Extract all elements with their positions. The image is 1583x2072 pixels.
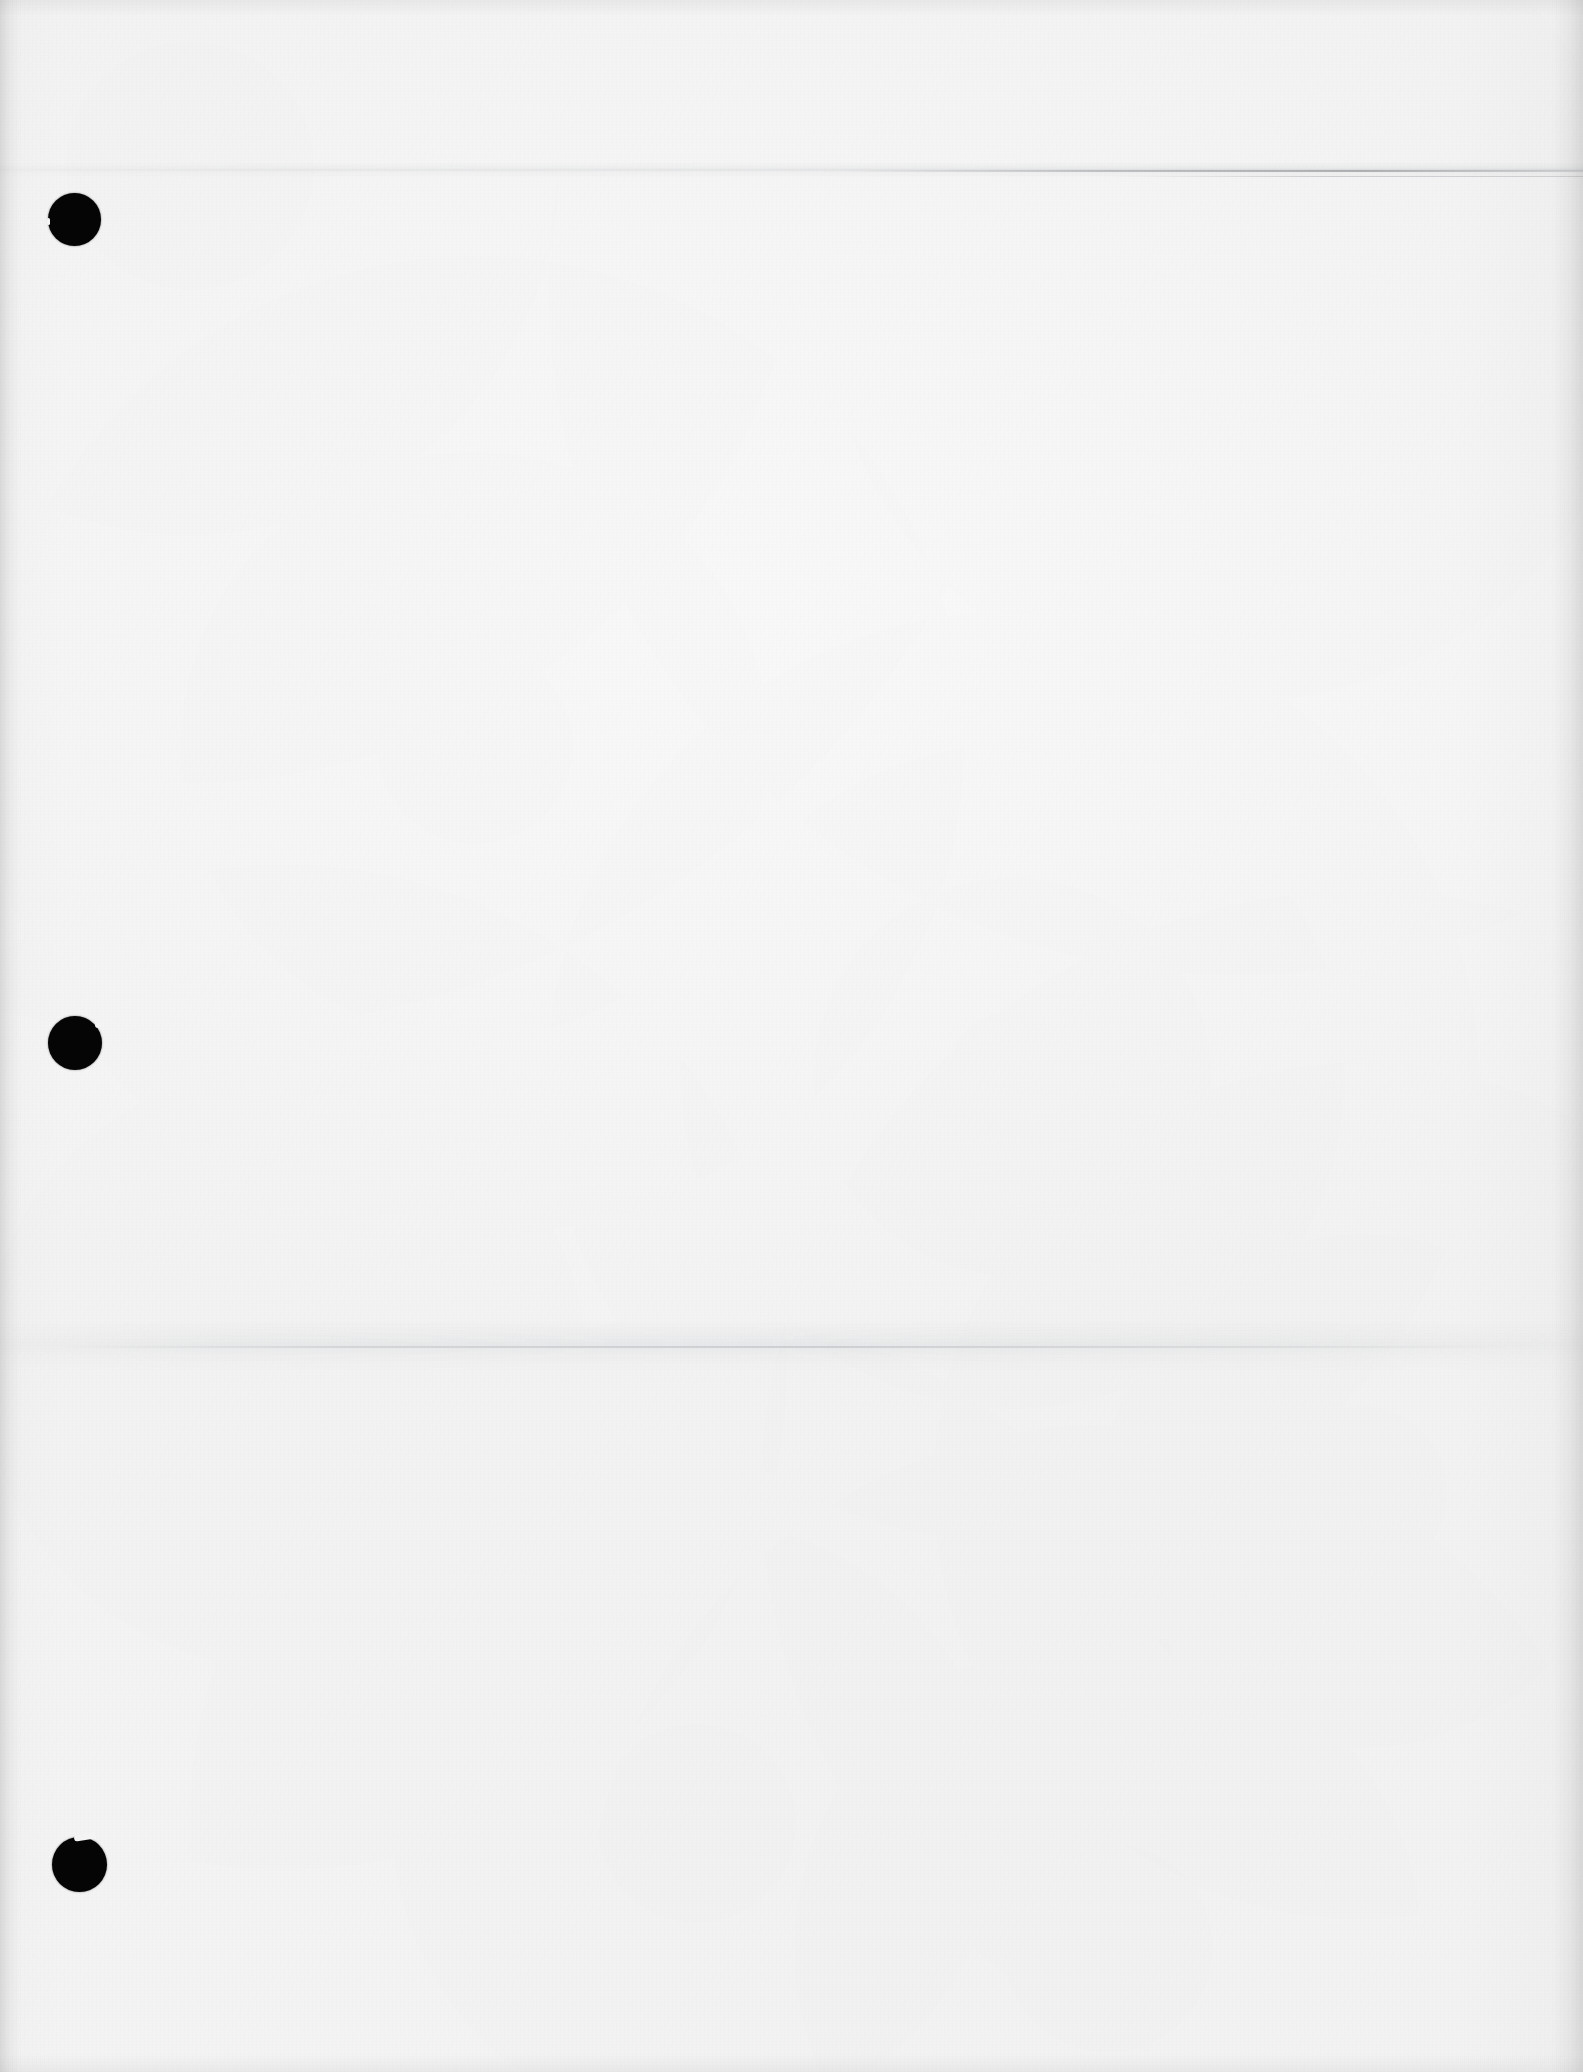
upper-fold-crease (0, 162, 1583, 178)
punch-hole-top (48, 193, 101, 246)
scan-edge-shadow-right (1553, 0, 1583, 2072)
punch-hole-middle (48, 1016, 102, 1070)
upper-fold-crease-hairline (840, 170, 1583, 172)
page-content-area (170, 250, 1510, 1950)
scan-edge-shadow-bottom (0, 2054, 1583, 2072)
scan-edge-shadow-top (0, 0, 1583, 16)
punch-hole-bottom (52, 1837, 107, 1892)
scan-edge-shadow-left (0, 0, 22, 2072)
scanned-page (0, 0, 1583, 2072)
upper-fold-crease-hairline-secondary (1110, 176, 1583, 177)
